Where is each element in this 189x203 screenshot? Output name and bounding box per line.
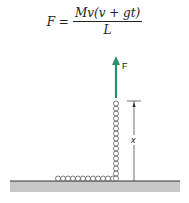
vertical-chain: [114, 101, 119, 181]
floor: [10, 181, 180, 192]
force-label: F: [122, 61, 128, 71]
horizontal-chain: [56, 176, 116, 181]
chain-diagram: [0, 0, 189, 203]
height-label: x: [130, 135, 137, 145]
force-arrow-icon: [112, 56, 120, 98]
